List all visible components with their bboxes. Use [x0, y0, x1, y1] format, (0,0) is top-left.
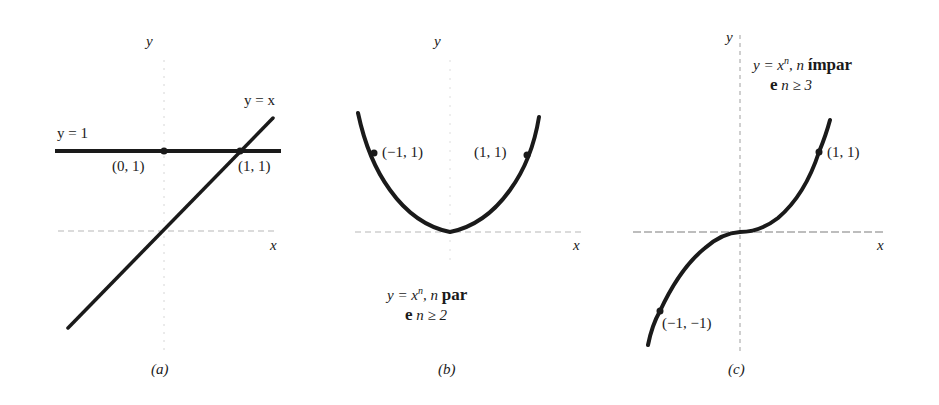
panel-b-y-axis-label: y	[434, 34, 441, 49]
panel-a-y-axis-label: y	[146, 34, 153, 49]
panel-a-point-label-0-1: (0, 1)	[112, 159, 145, 174]
panel-b-point-1-1	[524, 152, 531, 159]
panel-c-graph	[633, 35, 886, 355]
panel-b-x-axis-label: x	[573, 238, 580, 253]
panel-b-point-label-1-1: (1, 1)	[474, 145, 507, 160]
panel-a-line2-label: y = x	[244, 93, 275, 108]
panel-a-x-axis-label: x	[270, 238, 277, 253]
panel-c-point-neg1-neg1	[657, 308, 664, 315]
panel-c-point-1-1	[816, 149, 823, 156]
panel-b-caption: (b)	[438, 362, 456, 377]
panel-b-eq-word: par	[442, 285, 468, 304]
panel-c-eq-e: e	[770, 75, 778, 94]
panel-b-equation-line2: e n ≥ 2	[405, 306, 447, 323]
panel-b-point-label-neg1-1: (−1, 1)	[382, 145, 423, 160]
panel-b-point-neg1-1	[371, 150, 378, 157]
panel-b-eq-e: e	[405, 305, 413, 324]
panel-a-line1-label: y = 1	[57, 126, 88, 141]
panel-b-parabola	[358, 113, 539, 232]
panel-a-caption: (a)	[151, 362, 169, 377]
panel-c-caption: (c)	[728, 362, 745, 377]
panel-c-x-axis-label: x	[877, 238, 884, 253]
panel-b-eq-condition: n ≥ 2	[413, 307, 447, 323]
panel-c-equation-line2: e n ≥ 3	[770, 76, 812, 93]
panel-a-point-1-1	[237, 148, 244, 155]
panel-c-point-label-1-1: (1, 1)	[827, 145, 860, 160]
panel-b-eq-mid: , n	[423, 287, 442, 303]
panel-b-equation-line1: y = xn, n par	[387, 286, 467, 303]
panel-c-eq-condition: n ≥ 3	[778, 77, 812, 93]
panel-b-eq-prefix: y = x	[387, 287, 418, 303]
panel-c-eq-mid: , n	[789, 57, 808, 73]
panel-c-eq-word: ímpar	[808, 55, 852, 74]
panel-c-equation-line1: y = xn, n ímpar	[753, 56, 852, 73]
panel-a-point-label-1-1: (1, 1)	[238, 159, 271, 174]
panel-c-point-label-neg1-neg1: (−1, −1)	[662, 316, 711, 331]
panel-c-y-axis-label: y	[726, 30, 733, 45]
panel-c-eq-prefix: y = x	[753, 57, 784, 73]
panel-a-point-0-1	[161, 148, 168, 155]
panel-b-graph	[355, 60, 582, 262]
